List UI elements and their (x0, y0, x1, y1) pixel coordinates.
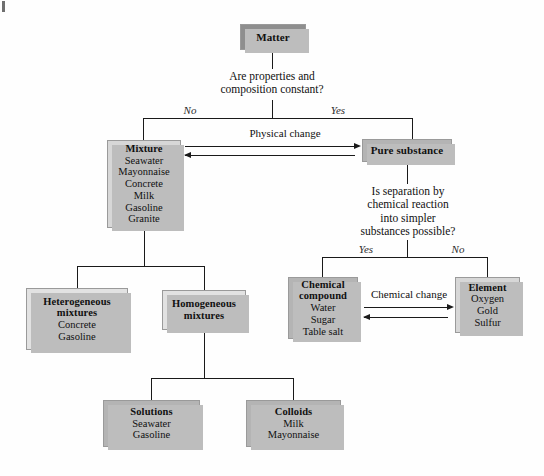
node-solutions-item-0: Seawater (132, 418, 170, 430)
matter-classification-flowchart: Matter Are properties and composition co… (0, 0, 544, 476)
node-mixture-title: Mixture (125, 143, 162, 155)
split-right-homogeneous (293, 378, 294, 400)
split-left-mixture (77, 266, 78, 288)
arrow-physical-change-forward-head (354, 143, 361, 149)
split-bar-mixture (77, 266, 204, 267)
edge-label-physical-change: Physical change (215, 127, 355, 139)
split-right-mixture (204, 266, 205, 290)
branch-label-q1-no: No (170, 104, 210, 116)
node-chemical-compound-title-2: compound (299, 290, 347, 302)
question-2-line-3: into simpler (337, 212, 479, 225)
branch-label-q2-no: No (440, 243, 476, 255)
node-chemical-compound-title: Chemical (301, 279, 344, 291)
question-2-line-2: chemical reaction (337, 198, 479, 211)
node-homogeneous-title: Homogeneous (172, 298, 236, 310)
connector-pure-to-q2 (407, 162, 408, 184)
node-colloids-title: Colloids (275, 406, 313, 418)
node-mixture-item-5: Granite (128, 213, 160, 225)
arrow-physical-change-forward-line (185, 146, 355, 147)
split-bar-q1 (143, 118, 412, 119)
node-colloids[interactable]: Colloids Milk Mayonnaise (246, 400, 341, 447)
connector-mixture-down (144, 228, 145, 266)
node-heterogeneous-item-1: Gasoline (58, 331, 95, 343)
node-solutions-item-1: Gasoline (133, 429, 170, 441)
question-chemical-separation: Is separation by chemical reaction into … (337, 185, 479, 238)
node-mixture-item-2: Concrete (125, 178, 163, 190)
arrow-physical-change-reverse-head (184, 152, 191, 158)
split-right-q2 (487, 257, 488, 277)
node-heterogeneous-title-2: mixtures (57, 307, 97, 319)
connector-homogeneous-down (204, 330, 205, 378)
node-element-title: Element (468, 282, 506, 294)
arrow-chemical-change-reverse-line (364, 317, 448, 318)
node-heterogeneous-mixtures[interactable]: Heterogeneous mixtures Concrete Gasoline (26, 288, 128, 350)
arrow-chemical-change-forward-head (447, 304, 454, 310)
split-left-homogeneous (151, 378, 152, 400)
connector-q1-to-split (272, 100, 273, 118)
question-2-line-4: substances possible? (337, 225, 479, 238)
arrow-chemical-change-forward-line (364, 307, 448, 308)
node-solutions[interactable]: Solutions Seawater Gasoline (103, 400, 200, 447)
node-pure-substance-title: Pure substance (371, 144, 443, 156)
split-left-q2 (322, 257, 323, 277)
node-colloids-item-0: Milk (283, 418, 303, 430)
arrow-physical-change-reverse-line (185, 155, 355, 156)
node-colloids-item-1: Mayonnaise (268, 429, 319, 441)
node-mixture-item-0: Seawater (125, 155, 163, 167)
node-mixture[interactable]: Mixture Seawater Mayonnaise Concrete Mil… (107, 140, 181, 228)
edge-label-chemical-change: Chemical change (359, 288, 459, 300)
node-homogeneous-title-2: mixtures (184, 310, 224, 322)
node-element[interactable]: Element Oxygen Gold Sulfur (455, 277, 520, 333)
scan-artifact (2, 1, 5, 12)
split-right-q1 (412, 118, 413, 140)
node-solutions-title: Solutions (130, 406, 172, 418)
node-element-item-2: Sulfur (474, 317, 500, 329)
split-bar-q2 (322, 257, 487, 258)
node-homogeneous-mixtures[interactable]: Homogeneous mixtures (162, 290, 246, 330)
question-2-line-1: Is separation by (337, 185, 479, 198)
node-matter[interactable]: Matter (240, 24, 306, 50)
node-heterogeneous-title: Heterogeneous (43, 296, 111, 308)
node-pure-substance[interactable]: Pure substance (362, 139, 452, 162)
node-mixture-item-4: Gasoline (125, 202, 162, 214)
question-properties-composition: Are properties and composition constant? (182, 70, 362, 97)
node-mixture-item-1: Mayonnaise (118, 166, 169, 178)
node-element-item-0: Oxygen (471, 293, 504, 305)
arrow-chemical-change-reverse-head (363, 314, 370, 320)
split-left-q1 (143, 118, 144, 140)
node-chemical-compound-item-0: Water (311, 302, 336, 314)
node-chemical-compound-item-2: Table salt (303, 326, 343, 338)
node-element-item-1: Gold (477, 305, 498, 317)
branch-label-q2-yes: Yes (348, 243, 384, 255)
split-bar-homogeneous (151, 378, 293, 379)
connector-q2-to-split (407, 240, 408, 257)
node-heterogeneous-item-0: Concrete (58, 319, 96, 331)
node-mixture-item-3: Milk (134, 190, 154, 202)
node-matter-title: Matter (256, 31, 290, 43)
branch-label-q1-yes: Yes (318, 104, 358, 116)
question-1-line-2: composition constant? (182, 83, 362, 96)
node-chemical-compound[interactable]: Chemical compound Water Sugar Table salt (288, 277, 358, 339)
node-chemical-compound-item-1: Sugar (311, 314, 336, 326)
question-1-line-1: Are properties and (182, 70, 362, 83)
